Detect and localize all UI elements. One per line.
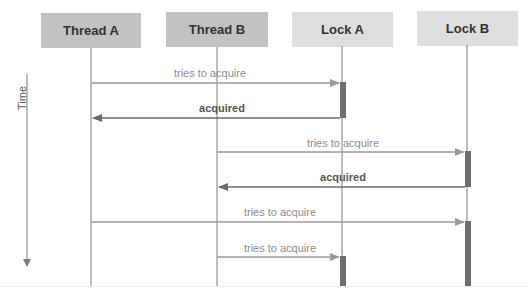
time-axis-label: Time xyxy=(16,86,28,110)
activation-bars xyxy=(340,82,471,286)
message-label-5: tries to acquire xyxy=(244,206,316,218)
bottom-divider xyxy=(0,286,527,287)
activation-lock-b-2 xyxy=(465,221,471,286)
activation-lock-a-2 xyxy=(340,256,346,286)
message-label-1: tries to acquire xyxy=(174,67,246,79)
activation-lock-b-1 xyxy=(465,151,471,187)
sequence-diagram: Thread A Thread B Lock A Lock B xyxy=(0,0,527,295)
message-label-4: acquired xyxy=(320,171,366,183)
message-label-2: acquired xyxy=(199,102,245,114)
activation-lock-a-1 xyxy=(340,82,346,118)
message-label-3: tries to acquire xyxy=(307,137,379,149)
message-label-6: tries to acquire xyxy=(244,242,316,254)
